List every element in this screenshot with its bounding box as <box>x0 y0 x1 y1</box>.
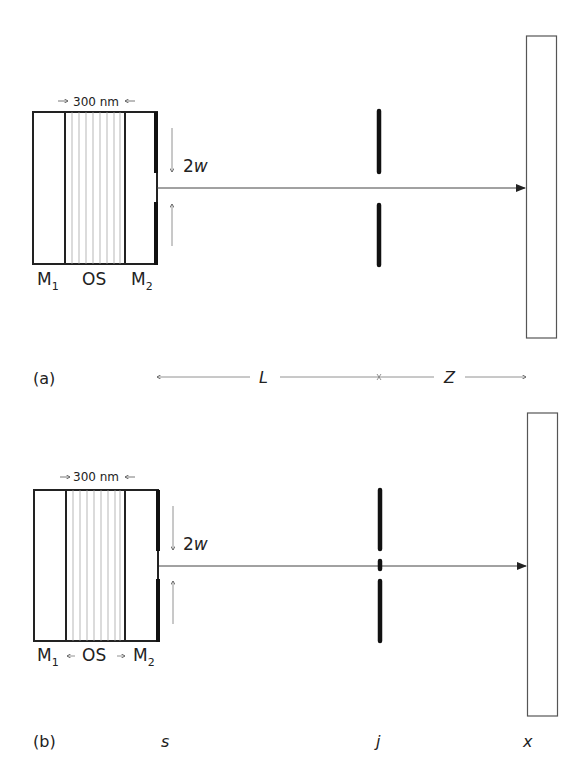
panel-label-b: (b) <box>33 732 56 751</box>
m2-label-b: M2 <box>133 645 155 669</box>
panel-a: 300 nm M1 OS M2 <box>33 36 557 388</box>
microcavity-b <box>34 490 158 642</box>
thickness-label-b: 300 nm <box>73 470 119 484</box>
thickness-annotation-a: 300 nm <box>58 95 135 109</box>
diagram-canvas: 300 nm M1 OS M2 <box>0 0 586 780</box>
organic-semiconductor-hatch-b <box>73 490 120 641</box>
panel-label-a: (a) <box>33 369 55 388</box>
m1-label-a: M1 <box>37 269 59 293</box>
detection-screen-b <box>528 413 558 716</box>
position-label-s: s <box>161 732 169 751</box>
m2-label-a: M2 <box>131 269 153 293</box>
microcavity-a <box>33 112 157 265</box>
distance-label-Z: Z <box>443 368 456 387</box>
detection-screen-a <box>527 36 557 338</box>
aperture-label-b: 2w <box>183 534 208 554</box>
os-label-b: OS <box>82 645 106 665</box>
aperture-w-b: w <box>194 534 208 554</box>
distance-annotation: L Z <box>157 368 526 387</box>
position-label-j: j <box>374 732 381 751</box>
cavity-outline-b <box>34 490 158 641</box>
aperture-w-a: w <box>194 156 208 176</box>
distance-label-L: L <box>259 368 268 387</box>
m1-label-b: M1 <box>37 645 59 669</box>
panel-b: 300 nm M1 OS M2 2w <box>33 413 558 751</box>
cavity-outline-a <box>33 112 157 264</box>
aperture-label-a: 2w <box>183 156 208 176</box>
organic-semiconductor-hatch-a <box>72 112 120 264</box>
os-label-a: OS <box>82 269 106 289</box>
position-label-x: x <box>522 732 533 751</box>
thickness-annotation-b: 300 nm <box>60 470 135 484</box>
thickness-label-a: 300 nm <box>73 95 119 109</box>
